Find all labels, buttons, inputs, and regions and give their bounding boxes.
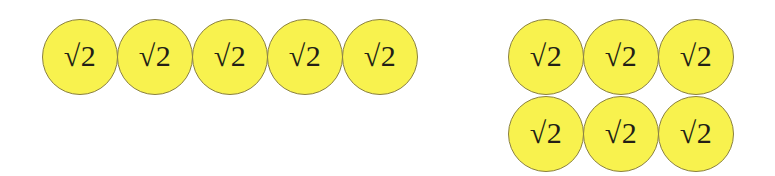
sqrt2-token-label: √2 (530, 118, 562, 148)
token-row: √2 √2 √2 √2 √2 (42, 19, 418, 95)
sqrt2-token-label: √2 (289, 41, 321, 71)
sqrt2-token: √2 (583, 19, 659, 95)
illustration-canvas: √2 √2 √2 √2 √2 √2 √2 √2 (0, 0, 775, 176)
sqrt2-token-label: √2 (605, 41, 637, 71)
sqrt2-token: √2 (42, 19, 118, 95)
sqrt2-token: √2 (583, 96, 659, 172)
token-group-left: √2 √2 √2 √2 √2 (42, 19, 418, 95)
sqrt2-token: √2 (508, 19, 584, 95)
sqrt2-token: √2 (508, 96, 584, 172)
sqrt2-token-label: √2 (530, 41, 562, 71)
sqrt2-token: √2 (658, 19, 734, 95)
sqrt2-token-label: √2 (64, 41, 96, 71)
token-row: √2 √2 √2 (508, 96, 734, 172)
token-group-right: √2 √2 √2 √2 √2 √2 (508, 19, 734, 172)
sqrt2-token: √2 (267, 19, 343, 95)
sqrt2-token: √2 (342, 19, 418, 95)
sqrt2-token-label: √2 (214, 41, 246, 71)
token-row: √2 √2 √2 (508, 19, 734, 95)
sqrt2-token: √2 (658, 96, 734, 172)
sqrt2-token-label: √2 (680, 118, 712, 148)
sqrt2-token-label: √2 (139, 41, 171, 71)
sqrt2-token-label: √2 (680, 41, 712, 71)
sqrt2-token: √2 (117, 19, 193, 95)
sqrt2-token-label: √2 (605, 118, 637, 148)
sqrt2-token-label: √2 (364, 41, 396, 71)
sqrt2-token: √2 (192, 19, 268, 95)
